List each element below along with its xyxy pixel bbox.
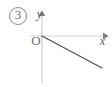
plotted-line-series (42, 36, 102, 68)
item-number-label: 3 (15, 7, 22, 22)
item-number-badge: 3 (10, 7, 27, 24)
origin-label: O (31, 33, 40, 48)
coordinate-figure-svg: 3 x y O (0, 0, 112, 87)
x-axis-label: x (99, 34, 106, 48)
coordinate-figure-container: 3 x y O (0, 0, 112, 87)
y-axis-label: y (36, 7, 43, 21)
